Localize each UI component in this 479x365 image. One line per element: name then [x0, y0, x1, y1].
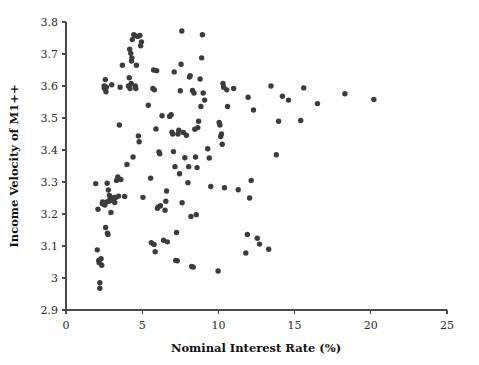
data-point [146, 103, 151, 108]
data-point [158, 203, 163, 208]
data-point [280, 94, 285, 99]
data-point [194, 165, 199, 170]
data-point [185, 180, 190, 185]
data-point [127, 86, 132, 91]
x-axis-title: Nominal Interest Rate (%) [171, 341, 341, 355]
data-point [120, 62, 125, 67]
data-point [179, 28, 184, 33]
data-point [202, 97, 207, 102]
data-point [179, 200, 184, 205]
data-points-layer [93, 28, 377, 291]
data-point [99, 263, 104, 268]
data-point [98, 256, 103, 261]
data-point [97, 286, 102, 291]
data-point [174, 230, 179, 235]
y-tick-label: 3.4 [41, 144, 59, 157]
data-point [128, 51, 133, 56]
data-point [199, 55, 204, 60]
data-point [224, 87, 229, 92]
data-point [116, 193, 121, 198]
data-point [112, 200, 117, 205]
data-point [176, 127, 181, 132]
data-point [220, 142, 225, 147]
data-point [118, 177, 123, 182]
data-point [255, 236, 260, 241]
data-point [177, 171, 182, 176]
data-point [163, 199, 168, 204]
data-point [191, 90, 196, 95]
y-tick-label: 3.6 [41, 80, 59, 93]
data-point [136, 139, 141, 144]
data-point [171, 149, 176, 154]
data-point [159, 113, 164, 118]
data-point [108, 210, 113, 215]
data-point [248, 178, 253, 183]
data-point [217, 122, 222, 127]
data-point [301, 85, 306, 90]
x-tick-label: 10 [211, 319, 225, 332]
data-point [175, 258, 180, 263]
data-point [130, 154, 135, 159]
data-point [236, 187, 241, 192]
data-point [109, 82, 114, 87]
data-point [133, 86, 138, 91]
y-axis-ticks: 2.933.13.23.33.43.53.63.73.8 [41, 16, 67, 317]
data-point [196, 119, 201, 124]
data-point [222, 185, 227, 190]
data-point [103, 225, 108, 230]
data-point [140, 195, 145, 200]
x-axis-ticks: 0510152025 [63, 310, 455, 332]
data-point [178, 62, 183, 67]
y-tick-label: 3.7 [41, 48, 59, 61]
data-point [168, 112, 173, 117]
data-point [193, 154, 198, 159]
y-axis-title: Income Velocity of M1++ [7, 84, 21, 247]
data-point [243, 250, 248, 255]
data-point [137, 33, 142, 38]
data-point [286, 97, 291, 102]
data-point [219, 131, 224, 136]
data-point [197, 76, 202, 81]
x-tick-label: 15 [288, 319, 302, 332]
data-point [106, 187, 111, 192]
data-point [200, 90, 205, 95]
data-point [274, 152, 279, 157]
data-point [298, 118, 303, 123]
data-point [186, 164, 191, 169]
data-point [105, 232, 110, 237]
data-point [139, 39, 144, 44]
data-point [154, 68, 159, 73]
y-tick-label: 3.2 [41, 208, 59, 221]
data-point [207, 155, 212, 160]
data-point [182, 155, 187, 160]
data-point [95, 247, 100, 252]
data-point [97, 280, 102, 285]
data-point [315, 101, 320, 106]
data-point [164, 188, 169, 193]
data-point [127, 75, 132, 80]
data-point [268, 83, 273, 88]
data-point [245, 95, 250, 100]
data-point [208, 184, 213, 189]
plot-canvas: 2.933.13.23.33.43.53.63.73.8 0510152025 … [0, 0, 479, 365]
data-point [170, 131, 175, 136]
data-point [153, 126, 158, 131]
data-point [151, 242, 156, 247]
data-point [178, 88, 183, 93]
data-point [148, 175, 153, 180]
y-tick-label: 3 [51, 272, 58, 285]
y-tick-label: 3.1 [41, 240, 59, 253]
data-point [195, 125, 200, 130]
x-tick-label: 0 [63, 319, 70, 332]
data-point [104, 85, 109, 90]
data-point [231, 86, 236, 91]
y-tick-label: 3.8 [41, 16, 59, 29]
data-point [371, 97, 376, 102]
data-point [104, 181, 109, 186]
data-point [103, 77, 108, 82]
data-point [188, 73, 193, 78]
data-point [152, 249, 157, 254]
data-point [152, 87, 157, 92]
data-point [198, 104, 203, 109]
data-point [184, 133, 189, 138]
